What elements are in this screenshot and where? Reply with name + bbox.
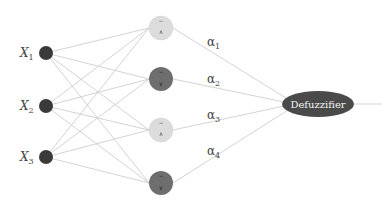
rule-node-3-bottom-symbol: ∧ xyxy=(159,130,163,137)
rule-node-1-bottom-symbol: ∧ xyxy=(159,28,163,35)
weight-label-4: α4 xyxy=(207,144,220,160)
rule-node-3: − ∧ xyxy=(149,118,173,142)
rule-node-2-top-symbol: − xyxy=(158,68,163,75)
weight-label-1: α1 xyxy=(207,35,220,51)
input-label-3: X3 xyxy=(19,150,34,166)
rule-node-1: − ∧ xyxy=(149,16,173,40)
weight-labels: α1 α2 α3 α4 xyxy=(207,35,220,160)
rule-layer: − ∧ − ∨ − ∧ − ∨ xyxy=(149,16,173,195)
input-to-rule-edges xyxy=(46,28,149,183)
defuzzifier-label: Defuzzifier xyxy=(290,99,345,110)
defuzzifier-node: Defuzzifier xyxy=(282,91,354,117)
input-node-3 xyxy=(39,150,53,164)
rule-node-1-top-symbol: − xyxy=(158,17,163,24)
rule-node-2-bottom-symbol: ∨ xyxy=(159,80,163,87)
rule-node-4-bottom-symbol: ∨ xyxy=(159,184,163,191)
rule-node-2: − ∨ xyxy=(149,67,173,91)
fuzzy-network-diagram: X1 X2 X3 − ∧ − ∨ − ∧ − xyxy=(0,0,389,204)
rule-node-4: − ∨ xyxy=(149,171,173,195)
input-node-1 xyxy=(39,46,53,60)
input-layer: X1 X2 X3 xyxy=(19,46,53,166)
input-label-1: X1 xyxy=(19,46,34,62)
diagram-svg: X1 X2 X3 − ∧ − ∨ − ∧ − xyxy=(0,0,389,204)
rule-node-3-top-symbol: − xyxy=(158,119,163,126)
input-label-2: X2 xyxy=(19,99,34,115)
input-node-2 xyxy=(39,99,53,113)
weight-label-3: α3 xyxy=(207,108,220,124)
rule-node-4-top-symbol: − xyxy=(158,172,163,179)
weight-label-2: α2 xyxy=(207,72,220,88)
